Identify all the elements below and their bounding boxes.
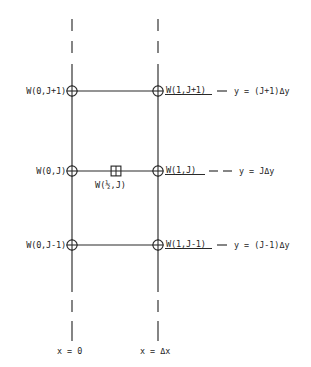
node-label-suffix: )	[191, 165, 196, 175]
node-label-prefix: W(	[166, 85, 176, 95]
node-label-mid: ,J+	[181, 85, 196, 95]
node-label-suffix: )	[201, 85, 206, 95]
node-label-w-1-jminus1: W(1,J-1)	[166, 239, 206, 249]
x-axis-label-zero: x = 0	[57, 346, 82, 356]
node-marker-w-0-jminus1	[66, 239, 77, 250]
y-coordinate-bottom: y = (J-1)Δy	[234, 240, 289, 250]
node-label-mid: ,J	[181, 165, 191, 175]
node-marker-w-1-jplus1	[152, 85, 163, 96]
y-coordinate-middle: y = JΔy	[239, 166, 274, 176]
node-label-w-1-j: W(1,J)	[166, 165, 196, 175]
node-label-w-half-j: W(½,J)	[95, 180, 126, 190]
node-label-mid: ,J-	[181, 239, 196, 249]
grid-stencil-diagram: W(0,J+1) W(0,J) W(0,J-1) W(1,J+1) W(1,J)…	[0, 0, 311, 367]
grid-canvas	[0, 0, 311, 367]
node-marker-w-1-jminus1	[152, 239, 163, 250]
node-label-w-1-jplus1: W(1,J+1)	[166, 85, 206, 95]
node-label-prefix: W(	[166, 239, 176, 249]
node-marker-w-0-j	[66, 165, 77, 176]
node-label-w-0-j: W(0,J)	[36, 166, 66, 176]
node-marker-w-0-jplus1	[66, 85, 77, 96]
x-axis-label-delta: x = Δx	[140, 346, 170, 356]
node-marker-w-1-j	[152, 165, 163, 176]
node-label-w-0-jminus1: W(0,J-1)	[26, 240, 66, 250]
node-label-prefix: W(	[166, 165, 176, 175]
node-label-suffix: )	[201, 239, 206, 249]
node-marker-w-half-j	[111, 166, 121, 176]
y-coordinate-top: y = (J+1)Δy	[234, 86, 289, 96]
node-label-w-0-jplus1: W(0,J+1)	[26, 86, 66, 96]
